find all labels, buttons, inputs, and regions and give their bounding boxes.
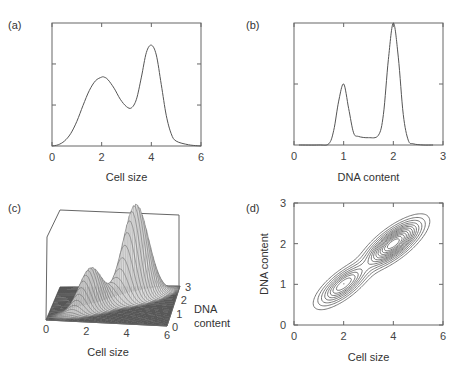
x-tick-label: 6 [440,330,446,342]
x-tick-label: 4 [390,330,396,342]
y-tick-label: 3 [280,197,286,209]
x-tick-label: 2 [341,330,347,342]
x-tick-label: 6 [164,329,170,341]
plot-frame [294,23,443,145]
panel-b: (b) 0123 DNA content [246,19,446,183]
y-axis-label: DNA content [258,233,270,295]
x-tick-label: 1 [341,150,347,162]
x-tick-label: 0 [49,151,55,163]
x-axis-label: Cell size [106,171,148,183]
y-tick-label: 0 [280,319,286,331]
panel-label-c: (c) [8,202,21,214]
figure: (a) 0246 Cell size (b) 0123 DNA content … [0,0,462,376]
contour-line [328,225,417,298]
contour-line [313,214,430,310]
y-axis-label-line1: DNA [194,303,218,315]
x-tick-labels: 0246 [49,151,204,163]
x-tick-label: 2 [83,325,89,337]
panel-d: (d) 0246 0123 Cell size DNA content [246,197,446,363]
distribution-curve [52,45,201,146]
x-axis-label: DNA content [338,171,400,183]
panel-label-d: (d) [246,202,259,214]
x-tick-label: 2 [390,150,396,162]
contour-lines [313,214,430,310]
y-tick-label: 2 [181,294,187,306]
surface-mesh [46,204,180,326]
panel-c: (c) 0246 0123 Cell size DNA content [8,202,230,358]
panel-a: (a) 0246 Cell size [8,19,204,183]
x-tick-labels: 0123 [291,150,446,162]
x-tick-label: 4 [148,151,154,163]
x-axis-label: Cell size [348,351,390,363]
x-tick-label: 6 [198,151,204,163]
x-tick-label: 3 [440,150,446,162]
contour-line [330,226,414,295]
y-tick-label: 2 [280,238,286,250]
y-tick-label: 0 [172,321,178,333]
x-tick-label: 0 [43,323,49,335]
contour-line [325,223,419,300]
left-wall-edge [46,237,47,320]
x-tick-label: 0 [291,150,297,162]
panel-label-b: (b) [246,19,259,31]
y-tick-label: 3 [185,281,191,293]
x-tick-labels: 0246 [291,330,446,342]
x-tick-label: 2 [99,151,105,163]
back-wall-frame [47,210,179,286]
x-axis-label: Cell size [87,346,129,358]
x-tick-label: 4 [124,327,130,339]
y-tick-label: 1 [280,278,286,290]
y-tick-labels: 0123 [280,197,286,331]
y-tick-label: 1 [176,308,182,320]
y-axis-label-line2: content [194,317,230,329]
contour-line [321,220,421,303]
panel-label-a: (a) [8,19,21,31]
axis-ticks [294,23,443,145]
contour-line [333,228,412,293]
x-tick-label: 0 [291,330,297,342]
histogram-curve [299,23,433,145]
